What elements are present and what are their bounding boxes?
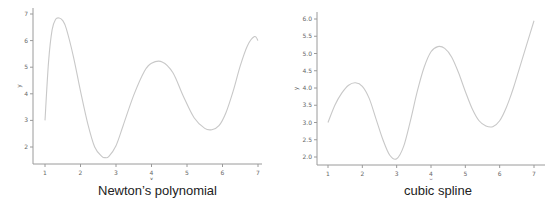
x-tick-label: 1 bbox=[43, 169, 47, 176]
x-tick-label: 3 bbox=[395, 170, 399, 177]
y-tick-label: 5.5 bbox=[302, 32, 312, 39]
y-tick-label: 5.0 bbox=[302, 50, 312, 57]
cubic-spline-caption: cubic spline bbox=[404, 183, 472, 198]
x-axis-label: x bbox=[429, 176, 433, 180]
y-tick-label: 4.5 bbox=[302, 67, 312, 74]
y-tick-label: 7 bbox=[24, 10, 28, 17]
y-axis-label: y bbox=[15, 84, 23, 88]
cubic-spline-panel: 12345672.02.53.03.54.04.55.05.56.0xy cub… bbox=[280, 0, 559, 210]
y-tick-label: 4 bbox=[24, 90, 28, 97]
y-tick-label: 3.5 bbox=[302, 101, 312, 108]
y-tick-label: 2.5 bbox=[302, 136, 312, 143]
y-tick-label: 3 bbox=[24, 116, 28, 123]
x-tick-label: 2 bbox=[360, 170, 364, 177]
x-tick-label: 6 bbox=[221, 169, 225, 176]
x-axis-label: x bbox=[150, 175, 154, 180]
x-tick-label: 2 bbox=[79, 169, 83, 176]
y-tick-label: 5 bbox=[24, 63, 28, 70]
cubic-spline-chart: 12345672.02.53.03.54.04.55.05.56.0xy bbox=[280, 0, 559, 180]
x-tick-label: 7 bbox=[256, 169, 260, 176]
y-axis-label: y bbox=[292, 86, 300, 90]
newton-polynomial-chart: 1234567234567xy bbox=[0, 0, 280, 180]
x-tick-label: 5 bbox=[185, 169, 189, 176]
x-tick-label: 3 bbox=[114, 169, 118, 176]
x-tick-label: 5 bbox=[463, 170, 467, 177]
newton-polynomial-caption: Newton’s polynomial bbox=[98, 183, 217, 198]
x-tick-label: 7 bbox=[532, 170, 536, 177]
x-tick-label: 1 bbox=[326, 170, 330, 177]
y-tick-label: 2 bbox=[24, 143, 28, 150]
y-tick-label: 2.0 bbox=[302, 153, 312, 160]
y-tick-label: 6.0 bbox=[302, 15, 312, 22]
y-tick-label: 4.0 bbox=[302, 84, 312, 91]
y-tick-label: 3.0 bbox=[302, 119, 312, 126]
x-tick-label: 6 bbox=[498, 170, 502, 177]
data-line bbox=[45, 18, 258, 158]
data-line bbox=[328, 21, 534, 160]
y-tick-label: 6 bbox=[24, 37, 28, 44]
newton-polynomial-panel: 1234567234567xy Newton’s polynomial bbox=[0, 0, 280, 210]
